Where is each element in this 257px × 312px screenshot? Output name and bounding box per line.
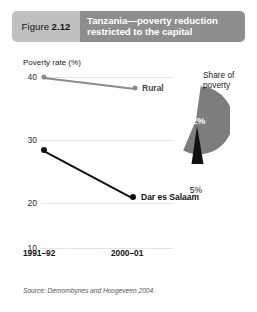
- series-line-rural: [44, 77, 136, 90]
- series-line-dar-es-salaam: [43, 150, 132, 199]
- figure-header: Figure 2.12 Tanzania—poverty reduction r…: [12, 11, 245, 42]
- pie-slice-label-5: 5%: [181, 185, 211, 195]
- pie-caption-line2: poverty: [203, 81, 234, 91]
- figure-label-text: Figure: [22, 21, 50, 32]
- y-tick-label-30: 30: [20, 135, 37, 145]
- pie-chart: 82%: [162, 86, 232, 156]
- source-note: Source: Demombynes and Hoogeveen 2004.: [23, 287, 155, 294]
- gridline-30: [40, 140, 173, 141]
- gridline-20: [40, 203, 173, 204]
- data-point-rural-2000: [133, 86, 138, 91]
- gridline-40: [40, 77, 173, 78]
- gridline-10: [40, 248, 173, 249]
- figure-container: Figure 2.12 Tanzania—poverty reduction r…: [0, 0, 257, 312]
- figure-title-box: Tanzania—poverty reduction restricted to…: [80, 11, 245, 42]
- figure-number-box: Figure 2.12: [12, 11, 80, 42]
- figure-number-text: 2.12: [52, 21, 71, 32]
- y-tick-label-20: 20: [20, 198, 37, 208]
- figure-title-line2: restricted to the capital: [87, 26, 245, 37]
- data-point-rural-1991: [42, 75, 47, 80]
- pie-slice-label-82: 82%: [162, 115, 230, 126]
- series-label-rural: Rural: [142, 83, 164, 93]
- y-tick-label-40: 40: [20, 72, 37, 82]
- y-axis-title: Poverty rate (%): [23, 58, 81, 67]
- data-point-dar-1991: [41, 147, 47, 153]
- x-tick-label-1991-92: 1991–92: [23, 248, 55, 258]
- data-point-dar-2000: [130, 194, 136, 200]
- figure-title-line1: Tanzania—poverty reduction: [87, 15, 245, 26]
- x-tick-label-2000-01: 2000–01: [111, 248, 143, 258]
- pie-exploded-slice-shape: [186, 126, 208, 166]
- pie-chart-caption: Share of poverty: [203, 71, 234, 90]
